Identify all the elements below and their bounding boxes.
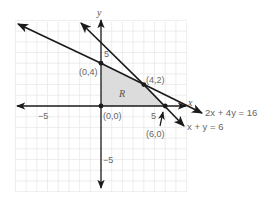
label-point-0-0: (0,0) bbox=[103, 111, 122, 121]
region-label: R bbox=[118, 88, 125, 99]
equation-label-2: x + y = 6 bbox=[187, 121, 223, 132]
y-axis-label: y bbox=[96, 7, 102, 18]
point-0-0 bbox=[99, 104, 104, 109]
point-6-0 bbox=[163, 104, 168, 109]
tick-y-5: 5 bbox=[104, 49, 109, 59]
x-axis-label: x bbox=[187, 97, 193, 108]
tick-x-neg5: −5 bbox=[38, 111, 48, 121]
tick-y-neg5: −5 bbox=[103, 155, 113, 165]
equation-label-1: 2x + 4y = 16 bbox=[205, 107, 257, 118]
pointer-arrow bbox=[160, 112, 163, 126]
linear-programming-graph: y x 5 −5 −5 5 (0,4) (4,2) (0,0) (6,0) R … bbox=[0, 0, 274, 199]
label-point-6-0: (6,0) bbox=[146, 129, 165, 139]
point-0-4 bbox=[99, 61, 104, 66]
tick-x-5: 5 bbox=[151, 111, 156, 121]
label-point-0-4: (0,4) bbox=[79, 67, 98, 77]
label-point-4-2: (4,2) bbox=[146, 75, 165, 85]
